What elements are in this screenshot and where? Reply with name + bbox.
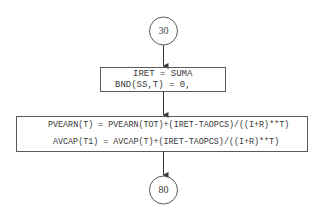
connector-label-80: 80 — [149, 184, 179, 196]
connector-label-30: 30 — [149, 25, 179, 37]
flowchart-canvas: 30 IRET = SUMA BND(SS,T) = 0, PVEARN(T) … — [0, 0, 327, 217]
box1-line-2: BND(SS,T) = 0, — [115, 79, 191, 91]
box2-line-1: PVEARN(T) = PVEARN(TOT)+(IRET-TAOPCS)/((… — [48, 119, 289, 131]
box2-line-2: AVCAP(T1) = AVCAP(T)+(IRET-TAOPCS)/((I+R… — [53, 136, 279, 148]
